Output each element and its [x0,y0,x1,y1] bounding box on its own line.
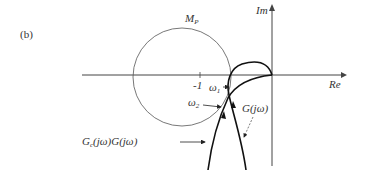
real-axis-arrow-icon [341,72,347,78]
omega1-label: ω1 [209,81,220,95]
imag-axis-arrow-icon [269,4,275,11]
imag-axis-label: Im [255,4,268,16]
real-axis-label: Re [328,78,341,90]
g-curve [228,62,272,170]
g-curve-leader [244,117,253,137]
omega2-leader [203,105,221,107]
omega2-label: ω2 [188,96,200,110]
mp-label: MP [184,12,199,26]
mp-circle [133,28,231,126]
gcg-curve-label: Gc(jω)G(jω) [82,135,138,149]
minus-one-label: -1 [193,79,202,91]
nyquist-diagram: (b) Re Im MP -1 ω1 ω2 G(jω) Gc(jω)G(jω) [0,0,368,177]
panel-label: (b) [20,28,33,41]
g-curve-label: G(jω) [242,102,268,115]
